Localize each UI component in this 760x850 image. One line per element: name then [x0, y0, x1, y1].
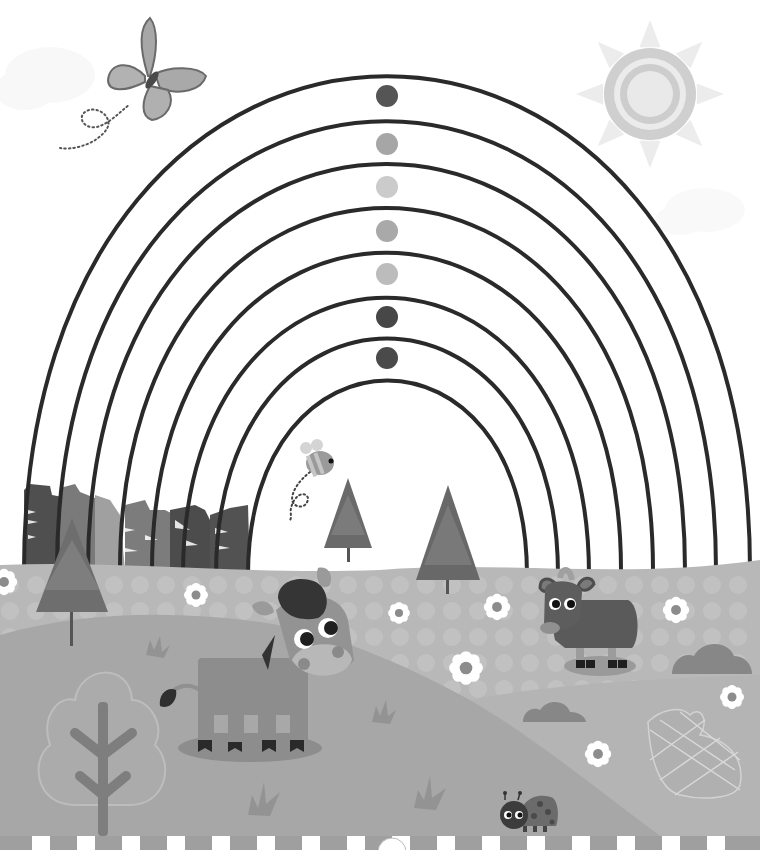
bee-eye	[329, 459, 334, 464]
outline-tree-trunk	[98, 702, 108, 836]
donkey-nostril-right	[332, 646, 344, 658]
fence-post	[167, 836, 185, 850]
flower	[449, 651, 483, 685]
donkey-nostril-left	[298, 658, 310, 670]
flower	[720, 685, 744, 709]
goat-eye-right	[567, 600, 575, 608]
color-dot-band-6	[376, 306, 398, 328]
flower	[184, 583, 208, 607]
flower	[388, 602, 410, 624]
fence-post	[122, 836, 140, 850]
bee-wing-right	[311, 439, 323, 451]
fence-post	[77, 836, 95, 850]
color-dot-band-3	[376, 176, 398, 198]
sun-core	[627, 71, 673, 117]
scene	[0, 0, 760, 850]
fence-strip	[0, 836, 760, 850]
fence-post	[347, 836, 365, 850]
goat-nose	[540, 622, 560, 634]
fence-post	[662, 836, 680, 850]
fence-post	[707, 836, 725, 850]
flower	[663, 597, 689, 623]
donkey-eye-right	[324, 621, 338, 635]
goat-eye-left	[552, 600, 560, 608]
fence-post	[572, 836, 590, 850]
bee-wing-left	[300, 442, 312, 454]
donkey-eye-left	[300, 632, 314, 646]
flower	[585, 741, 611, 767]
fence-post	[617, 836, 635, 850]
color-dot-band-2	[376, 133, 398, 155]
fence-post	[437, 836, 455, 850]
color-dot-band-7	[376, 347, 398, 369]
color-dot-band-5	[376, 263, 398, 285]
fence-post	[527, 836, 545, 850]
fence-post	[482, 836, 500, 850]
sun-icon	[576, 20, 724, 168]
fence-post	[32, 836, 50, 850]
color-dot-band-4	[376, 220, 398, 242]
flower	[484, 594, 510, 620]
color-dot-band-1	[376, 85, 398, 107]
fence-post	[302, 836, 320, 850]
fence-post	[257, 836, 275, 850]
fence-post	[212, 836, 230, 850]
